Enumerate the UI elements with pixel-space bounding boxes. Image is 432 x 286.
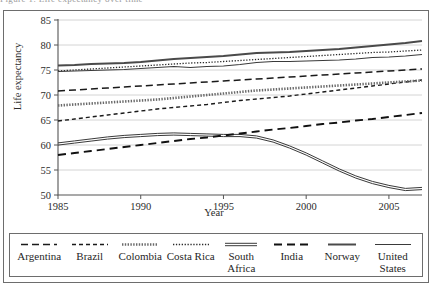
legend-label: Argentina [17,251,61,263]
legend-swatch-fine-dot-icon [171,240,211,249]
axis-lines [58,19,422,195]
legend-item-india[interactable]: India [267,240,318,263]
legend-item-argentina[interactable]: Argentina [14,240,65,263]
legend-item-costa-rica[interactable]: Costa Rica [166,240,217,263]
y-tick-label: 65 [41,115,52,126]
legend-label: Costa Rica [167,251,215,263]
legend-swatch-circle-chain-icon [120,240,160,249]
legend-swatch-long-dash-icon [19,240,59,249]
x-axis-title: Year [1,207,427,218]
series-line-colombia [58,81,422,106]
y-tick-label: 55 [41,165,52,176]
plot-area: 505560657075808519851990199520002005 Lif… [4,11,432,231]
series-line-argentina [58,69,422,91]
series-line-brazil [58,80,422,121]
series-line-costa-rica [58,50,422,71]
legend-item-united-states[interactable]: United States [368,240,419,274]
y-tick-label: 70 [41,90,52,101]
legend-label: Norway [325,251,360,263]
cropped-caption-text: Figure 1. Life expectancy over time [0,0,432,4]
legend-label: South Africa [216,251,267,274]
legend-swatch-double-line-icon [221,240,261,249]
series-line-south-africa [58,135,422,191]
legend-label: Colombia [119,251,162,263]
legend-item-brazil[interactable]: Brazil [65,240,116,263]
legend-label: United States [368,251,419,274]
legend-label: India [280,251,303,263]
legend-swatch-thick-solid-icon [322,240,362,249]
chart-legend: ArgentinaBrazilColombiaCosta RicaSouth A… [9,233,423,277]
chart-figure: Figure 1. Life expectancy over time 5055… [0,0,432,286]
series-line-india [58,113,422,155]
y-tick-label: 50 [41,190,52,201]
y-tick-label: 85 [41,15,52,26]
legend-swatch-solid-icon [373,240,413,249]
y-axis-title: Life expectancy [12,17,23,137]
y-tick-label: 75 [41,65,52,76]
y-tick-label: 80 [41,40,52,51]
cropped-caption: Figure 1. Life expectancy over time [0,0,432,9]
legend-item-south-africa[interactable]: South Africa [216,240,267,274]
series-line-south-africa [58,133,422,189]
legend-swatch-short-dash-icon [70,240,110,249]
y-tick-label: 60 [41,140,52,151]
line-chart: 505560657075808519851990199520002005 [4,11,430,221]
legend-label: Brazil [76,251,103,263]
legend-item-colombia[interactable]: Colombia [115,240,166,263]
legend-item-norway[interactable]: Norway [317,240,368,263]
legend-swatch-thick-long-dash-icon [272,240,312,249]
